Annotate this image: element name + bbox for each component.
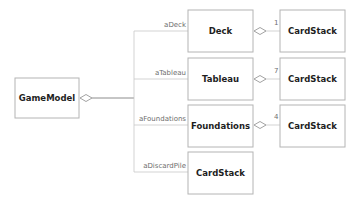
role-label-tableau: aTableau: [155, 69, 186, 77]
class-name-cardstack: CardStack: [288, 74, 337, 84]
class-box-foundations[interactable]: Foundations: [188, 105, 253, 147]
aggregation-diamond-icon: [254, 122, 266, 129]
class-box-gamemodel[interactable]: GameModel: [15, 78, 79, 118]
class-name-gamemodel: GameModel: [19, 93, 75, 103]
multiplicity-tableau: 7: [274, 67, 278, 75]
aggregation-diamond-icon: [254, 76, 266, 83]
class-box-cardstack-deck[interactable]: CardStack: [280, 10, 345, 52]
class-name-cardstack: CardStack: [288, 26, 337, 36]
multiplicity-foundations: 4: [274, 113, 279, 121]
class-name-foundations: Foundations: [191, 121, 250, 131]
role-label-deck: aDeck: [164, 21, 187, 29]
class-name-discardpile: CardStack: [196, 168, 245, 178]
class-name-deck: Deck: [209, 26, 233, 36]
class-box-cardstack-tableau[interactable]: CardStack: [280, 58, 345, 100]
role-label-discardpile: aDiscardPile: [143, 162, 186, 170]
multiplicity-deck: 1: [274, 19, 278, 27]
class-name-tableau: Tableau: [202, 74, 239, 84]
aggregation-diamond-icon: [254, 28, 266, 35]
class-box-tableau[interactable]: Tableau: [188, 58, 253, 100]
class-diagram: aDeck aTableau aFoundations aDiscardPile…: [0, 0, 360, 202]
aggregation-diamond-icon: [80, 95, 92, 102]
class-box-deck[interactable]: Deck: [188, 10, 253, 52]
role-label-foundations: aFoundations: [139, 115, 186, 123]
class-name-cardstack: CardStack: [288, 121, 337, 131]
class-box-cardstack-foundations[interactable]: CardStack: [280, 105, 345, 147]
class-box-discardpile[interactable]: CardStack: [188, 152, 253, 194]
